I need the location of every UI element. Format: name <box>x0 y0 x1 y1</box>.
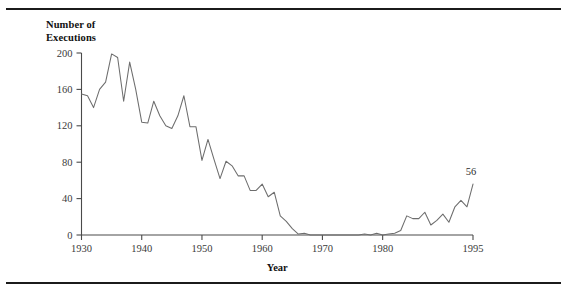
y-tick-label: 0 <box>67 230 72 241</box>
axes-group <box>77 53 474 240</box>
data-point-label: 56 <box>466 166 477 177</box>
chart-plot-area: 04080120160200 1930194019501960197019801… <box>0 14 567 280</box>
x-tick-marks <box>82 235 474 240</box>
annotation-labels: 56 <box>466 166 477 177</box>
executions-series-line <box>82 54 474 235</box>
y-tick-label: 80 <box>62 157 73 168</box>
x-tick-label: 1950 <box>191 243 212 254</box>
x-tick-label: 1960 <box>252 243 273 254</box>
y-tick-label: 200 <box>57 48 73 59</box>
axis-lines <box>82 53 474 235</box>
x-tick-label: 1940 <box>131 243 152 254</box>
x-tick-labels: 1930194019501960197019801995 <box>71 243 484 254</box>
x-tick-label: 1970 <box>312 243 333 254</box>
x-tick-label: 1995 <box>463 243 484 254</box>
y-tick-labels: 04080120160200 <box>57 48 73 241</box>
bottom-rule <box>6 282 561 284</box>
x-tick-label: 1930 <box>71 243 92 254</box>
y-tick-label: 160 <box>57 84 73 95</box>
y-tick-label: 120 <box>57 120 73 131</box>
y-tick-marks <box>77 53 82 235</box>
top-rule <box>6 8 561 10</box>
x-tick-label: 1980 <box>372 243 393 254</box>
y-tick-label: 40 <box>62 193 73 204</box>
line-chart-svg: 04080120160200 1930194019501960197019801… <box>0 14 567 280</box>
figure-frame: Number of Executions 04080120160200 1930… <box>0 0 567 300</box>
x-axis-title: Year <box>267 262 288 273</box>
